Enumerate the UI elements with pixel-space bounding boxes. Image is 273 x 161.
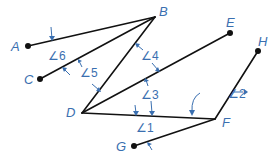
- label-c: C: [24, 72, 34, 87]
- segment-df: [82, 113, 215, 119]
- arrow-angle-1b: [149, 145, 152, 150]
- label-b: B: [159, 4, 168, 19]
- angle-labels: ∠1 ∠2 ∠3 ∠4 ∠5 ∠6: [48, 49, 246, 135]
- label-d: D: [66, 105, 75, 120]
- angle-3-label: ∠3: [141, 88, 159, 102]
- point-g: [131, 143, 137, 149]
- label-g: G: [116, 139, 126, 154]
- geometry-diagram: A B C D E F G H ∠1 ∠2 ∠3 ∠4 ∠5 ∠6: [0, 0, 273, 161]
- angle-4-label: ∠4: [141, 49, 159, 63]
- arrow-head-icon: [149, 111, 155, 116]
- point-e: [227, 30, 233, 36]
- angle-6-label: ∠6: [48, 49, 66, 63]
- label-e: E: [226, 15, 235, 30]
- arrow-head-icon: [189, 110, 195, 116]
- label-a: A: [10, 39, 20, 54]
- angle-1-label: ∠1: [136, 121, 154, 135]
- arrow-head-icon: [244, 89, 248, 95]
- point-c: [37, 76, 43, 82]
- label-h: H: [258, 34, 268, 49]
- angle-2-label: ∠2: [228, 87, 246, 101]
- angle-5-label: ∠5: [80, 66, 98, 80]
- label-f: F: [222, 115, 231, 130]
- segment-fh: [215, 51, 258, 119]
- point-a: [25, 43, 31, 49]
- arrow-angle-2a: [192, 93, 200, 112]
